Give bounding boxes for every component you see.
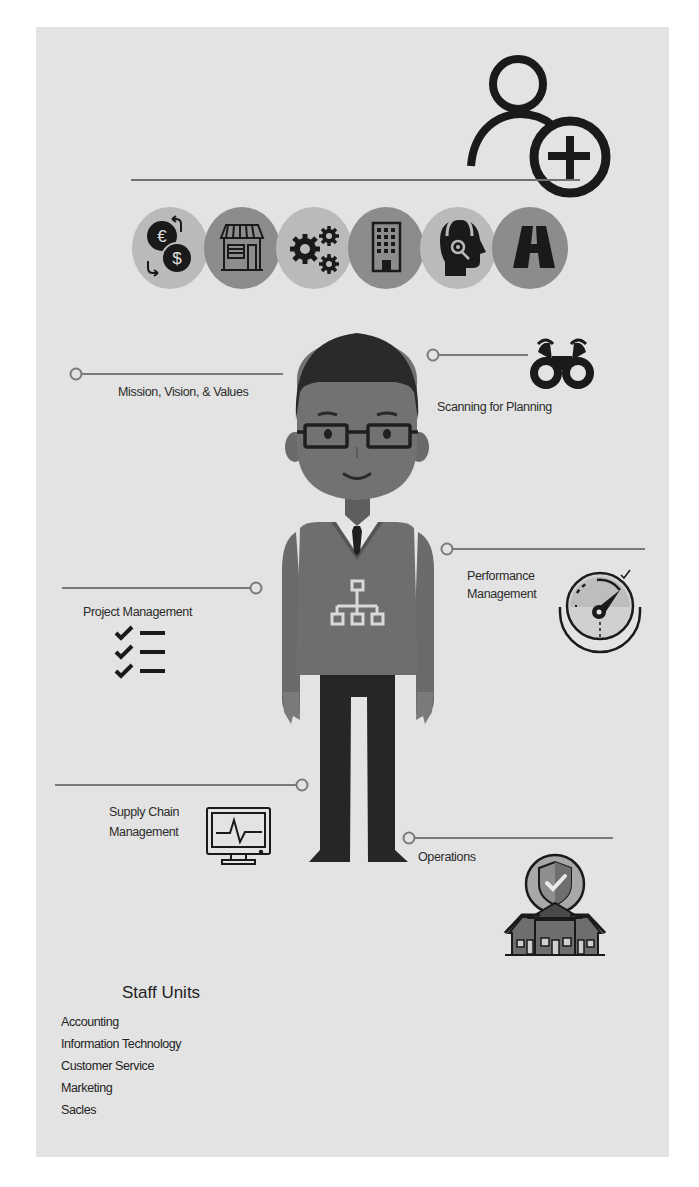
right-arm (416, 532, 434, 714)
performance-label-line2: Management (467, 583, 536, 605)
operations-connector-dot (404, 833, 415, 844)
monitor-pulse-icon (207, 808, 270, 864)
operations-label: Operations (418, 850, 476, 866)
secure-location-houses-icon (505, 855, 605, 955)
character-figure (282, 333, 434, 862)
mission-vision-values-label: Mission, Vision, & Values (118, 385, 248, 401)
staff-unit-item: Sacles (61, 1099, 181, 1121)
svg-text:$: $ (172, 249, 182, 268)
staff-units-list: Accounting Information Technology Custom… (61, 1011, 181, 1121)
infographic-artwork: € $ (0, 0, 699, 1187)
svg-text:€: € (157, 227, 167, 246)
category-circles-row: € $ (132, 207, 568, 289)
scanning-connector-dot (428, 350, 439, 361)
staff-unit-item: Marketing (61, 1077, 181, 1099)
pants (309, 673, 408, 862)
category-circle-building (348, 207, 424, 289)
supply-chain-management-label: Supply Chain Management (109, 801, 179, 843)
performance-management-label: Performance Management (467, 565, 536, 605)
add-user-icon (471, 59, 606, 193)
checklist-icon (116, 627, 165, 676)
staff-units-title: Staff Units (122, 983, 200, 1003)
scanning-for-planning-label: Scanning for Planning (437, 400, 552, 416)
supply-label-line2: Management (109, 821, 179, 843)
supply-label-line1: Supply Chain (109, 801, 179, 823)
staff-unit-item: Accounting (61, 1011, 181, 1033)
right-hand (416, 692, 433, 724)
left-hand (283, 692, 300, 724)
left-arm (282, 532, 300, 714)
supply-connector-dot (297, 780, 308, 791)
performance-connector-dot (442, 544, 453, 555)
project-management-label: Project Management (83, 605, 192, 621)
binoculars-icon (530, 340, 594, 389)
staff-unit-item: Customer Service (61, 1055, 181, 1077)
gauge-icon (560, 570, 640, 652)
mission-connector-dot (71, 369, 82, 380)
project-connector-dot (251, 583, 262, 594)
staff-unit-item: Information Technology (61, 1033, 181, 1055)
